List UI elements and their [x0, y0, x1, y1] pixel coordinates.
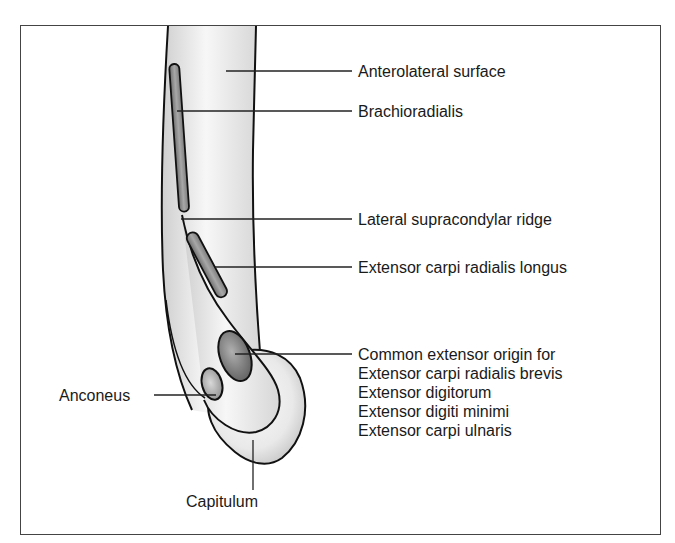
label-capitulum: Capitulum [186, 492, 258, 511]
label-lateral-supracondylar-ridge: Lateral supracondylar ridge [358, 210, 552, 229]
label-anconeus: Anconeus [59, 386, 130, 405]
label-common-extensor-group: Common extensor origin for Extensor carp… [358, 345, 563, 440]
label-ecu: Extensor carpi ulnaris [358, 421, 563, 440]
label-brachioradialis: Brachioradialis [358, 102, 463, 121]
label-ecrl: Extensor carpi radialis longus [358, 258, 567, 277]
label-common-extensor-origin: Common extensor origin for [358, 345, 563, 364]
label-ecrb: Extensor carpi radialis brevis [358, 364, 563, 383]
humerus-illustration [0, 0, 675, 543]
label-extensor-digiti-minimi: Extensor digiti minimi [358, 402, 563, 421]
label-anterolateral-surface: Anterolateral surface [358, 62, 506, 81]
label-extensor-digitorum: Extensor digitorum [358, 383, 563, 402]
